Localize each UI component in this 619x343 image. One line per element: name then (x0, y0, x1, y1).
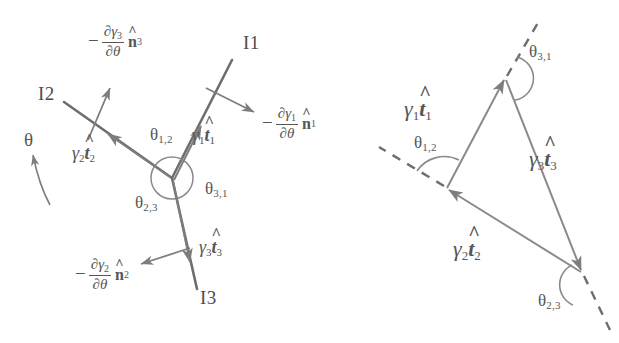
t-subscript: 3 (550, 158, 557, 173)
hat-accent: ^ (212, 226, 217, 243)
partial-derivative-fraction: ∂γ2 ∂θ (89, 257, 111, 292)
fraction-denominator: ∂θ (103, 44, 122, 59)
minus-sign: − (88, 31, 99, 50)
angle-arc-theta12 (417, 157, 459, 171)
interface-line-I1 (172, 60, 232, 178)
hat-accent: ^ (115, 257, 124, 271)
fraction-numerator: ∂γ2 (89, 257, 111, 274)
theta-symbol: θ (205, 179, 213, 198)
theta-symbol: θ (113, 43, 120, 59)
minus-sign: − (262, 113, 273, 132)
angle-label-theta31-junction: θ3,1 (205, 180, 228, 199)
t-vector: ^t (212, 238, 217, 256)
hat-accent: ^ (419, 83, 425, 103)
n-vector: ^n (128, 34, 137, 50)
partial-derivative-fraction: ∂γ1 ∂θ (276, 106, 298, 141)
t-vector: ^t (85, 144, 90, 162)
hat-accent: ^ (302, 106, 311, 120)
gamma-subscript: 2 (104, 263, 109, 274)
t-subscript: 2 (474, 248, 481, 263)
theta-subscript: 3,1 (537, 50, 552, 62)
t-vector: ^t (205, 126, 210, 144)
n-subscript: 2 (124, 270, 129, 280)
orientation-angle-label: θ (24, 130, 33, 149)
hat-accent: ^ (128, 24, 137, 38)
hat-accent: ^ (205, 114, 210, 131)
angle-arc-theta31 (515, 57, 533, 100)
tangent-label-g2t2: γ2^t2 (72, 144, 95, 164)
triangle-tangent-label-g3t3: γ3^t3 (529, 148, 557, 172)
triangle-angle-label-theta23: θ2,3 (538, 292, 561, 311)
hat-accent: ^ (544, 133, 550, 153)
minus-sign: − (75, 264, 86, 283)
normal-label-n1: − ∂γ1 ∂θ ^n1 (262, 106, 316, 141)
t-subscript: 1 (425, 108, 432, 123)
triangle-side-g1t1 (447, 80, 504, 188)
t-vector: ^t (419, 98, 425, 120)
gamma-subscript: 3 (117, 30, 122, 41)
gamma-symbol: γ (529, 146, 538, 171)
orientation-curved-arrow (33, 155, 50, 205)
n-vector: ^n (302, 116, 311, 132)
triangle-side-g3t3 (506, 80, 581, 270)
theta-subscript: 1,2 (158, 133, 173, 145)
theta-subscript: 2,3 (143, 201, 158, 213)
theta-symbol: θ (287, 125, 294, 141)
tangent-label-g1t1: γ1^t1 (192, 126, 215, 146)
gamma-symbol: γ (453, 236, 462, 261)
theta-symbol: θ (538, 291, 546, 310)
triangle-angle-label-theta12: θ1,2 (414, 134, 437, 153)
triangle-angle-label-theta31: θ3,1 (529, 43, 552, 62)
angle-label-theta23-junction: θ2,3 (135, 194, 158, 213)
fraction-denominator: ∂θ (90, 277, 109, 292)
hat-accent: ^ (85, 132, 90, 149)
theta-subscript: 3,1 (213, 187, 228, 199)
t-vector: ^t (544, 148, 550, 170)
normal-arrow-n1 (206, 88, 254, 112)
figure-canvas: I1 I2 I3 θ γ1^t1 γ2^t2 γ3^t3 − ∂γ3 ∂θ ^n… (0, 0, 619, 343)
t-subscript: 2 (90, 152, 96, 164)
normal-label-n3: − ∂γ3 ∂θ ^n3 (88, 24, 142, 59)
fraction-numerator: ∂γ3 (102, 24, 124, 41)
dashed-extension-bottom-right (584, 276, 610, 330)
interface-label-I2: I2 (38, 84, 55, 103)
theta-subscript: 1,2 (422, 141, 437, 153)
hat-accent: ^ (468, 223, 474, 243)
theta-symbol: θ (150, 125, 158, 144)
partial-symbol: ∂ (92, 276, 99, 292)
partial-derivative-fraction: ∂γ3 ∂θ (102, 24, 124, 59)
interface-label-I3: I3 (200, 288, 217, 307)
triangle-angle-arcs (417, 57, 573, 305)
fraction-denominator: ∂θ (277, 126, 296, 141)
theta-symbol: θ (100, 276, 107, 292)
triangle-tangent-label-g2t2: γ2^t2 (453, 238, 481, 262)
triangle-tangent-label-g1t1: γ1^t1 (404, 98, 432, 122)
theta-symbol: θ (529, 42, 537, 61)
partial-symbol: ∂ (279, 125, 286, 141)
triangle-dashed-extensions (379, 21, 610, 330)
normal-label-n2: − ∂γ2 ∂θ ^n2 (75, 257, 129, 292)
gamma-symbol: γ (404, 96, 413, 121)
angle-arc-theta23 (560, 265, 573, 305)
tangent-label-g3t3: γ3^t3 (199, 238, 222, 258)
t-subscript: 3 (217, 246, 223, 258)
angle-label-theta12-junction: θ1,2 (150, 126, 173, 145)
fraction-numerator: ∂γ1 (276, 106, 298, 123)
gamma-subscript: 1 (291, 112, 296, 123)
normal-arrow-n2 (141, 248, 190, 264)
theta-symbol: θ (135, 193, 143, 212)
theta-symbol: θ (414, 133, 422, 152)
partial-symbol: ∂ (105, 43, 112, 59)
t-vector: ^t (468, 238, 474, 260)
n-vector: ^n (115, 267, 124, 283)
t-subscript: 1 (210, 134, 216, 146)
n-subscript: 1 (311, 119, 316, 129)
interface-label-I1: I1 (243, 33, 260, 52)
n-subscript: 3 (137, 37, 142, 47)
theta-subscript: 2,3 (546, 299, 561, 311)
